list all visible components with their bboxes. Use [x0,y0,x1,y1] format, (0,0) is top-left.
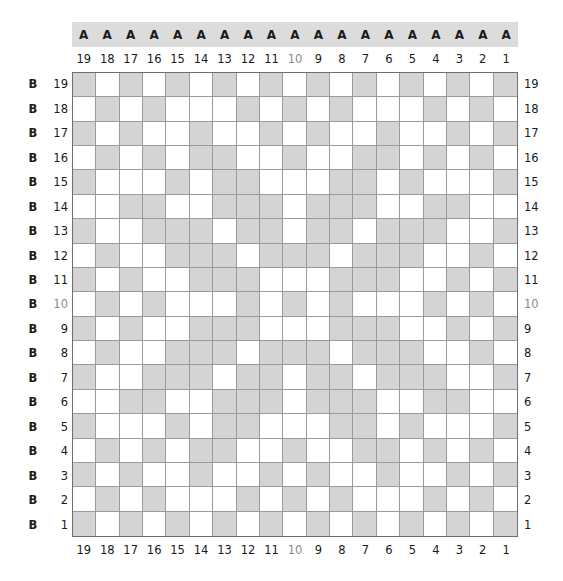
shaded-cell [307,463,330,487]
empty-cell [213,487,236,511]
empty-cell [330,463,353,487]
column-header-letter: A [307,28,330,42]
empty-cell [400,317,423,341]
empty-cell [447,146,470,170]
shaded-cell [283,341,306,365]
row-number: 2 [46,493,68,507]
shaded-cell [213,390,236,414]
empty-cell [307,268,330,292]
empty-cell [353,122,376,146]
shaded-cell [166,414,189,438]
empty-cell [330,341,353,365]
shaded-cell [400,219,423,243]
row-number: 15 [46,175,68,189]
empty-cell [260,146,283,170]
shaded-cell [377,122,400,146]
column-header-letter: A [424,28,447,42]
column-label: 8 [330,52,353,66]
empty-cell [190,390,213,414]
shaded-cell [237,317,260,341]
shaded-cell [377,146,400,170]
empty-cell [447,414,470,438]
row-number: 7 [46,371,68,385]
empty-cell [120,341,143,365]
empty-cell [307,170,330,194]
empty-cell [470,195,493,219]
shaded-cell [330,414,353,438]
column-header-letter: A [213,28,236,42]
empty-cell [400,146,423,170]
empty-cell [96,122,119,146]
shaded-cell [470,244,493,268]
empty-cell [260,97,283,121]
empty-cell [470,414,493,438]
row-label: B14 [20,194,70,218]
shaded-cell [190,365,213,389]
shaded-cell [260,244,283,268]
row-number-right: 5 [520,415,550,439]
empty-cell [447,219,470,243]
shaded-cell [424,219,447,243]
column-label: 17 [119,543,142,557]
shaded-cell [283,439,306,463]
empty-cell [424,122,447,146]
row-number: 18 [46,102,68,116]
empty-cell [494,341,517,365]
row-labels-right: 19181716151413121110987654321 [520,72,550,537]
empty-cell [447,341,470,365]
shaded-cell [73,122,96,146]
shaded-cell [213,146,236,170]
empty-cell [470,463,493,487]
shaded-cell [330,219,353,243]
empty-cell [166,463,189,487]
shaded-cell [237,487,260,511]
shaded-cell [213,170,236,194]
empty-cell [73,390,96,414]
column-header-letter: A [330,28,353,42]
shaded-cell [166,244,189,268]
row-number-right: 1 [520,513,550,537]
shaded-cell [494,268,517,292]
empty-cell [237,341,260,365]
empty-cell [307,414,330,438]
column-label: 4 [424,543,447,557]
column-label: 8 [330,543,353,557]
shaded-cell [470,292,493,316]
empty-cell [120,414,143,438]
shaded-cell [260,73,283,97]
empty-cell [143,317,166,341]
row-number-right: 12 [520,243,550,267]
empty-cell [283,512,306,536]
column-label: 14 [189,543,212,557]
row-number: 14 [46,200,68,214]
column-header-letter: A [95,28,118,42]
empty-cell [237,439,260,463]
row-number-right: 14 [520,194,550,218]
shaded-cell [447,390,470,414]
column-header-letter: A [354,28,377,42]
row-prefix: B [20,371,46,385]
row-number: 10 [46,297,68,311]
empty-cell [166,122,189,146]
column-label: 17 [119,52,142,66]
empty-cell [400,195,423,219]
shaded-cell [307,365,330,389]
row-label: B12 [20,243,70,267]
shaded-cell [400,512,423,536]
row-label: B17 [20,121,70,145]
shaded-cell [143,365,166,389]
column-label: 10 [283,52,306,66]
shaded-cell [260,390,283,414]
row-prefix: B [20,297,46,311]
shaded-cell [400,341,423,365]
empty-cell [400,268,423,292]
empty-cell [73,292,96,316]
empty-cell [120,439,143,463]
empty-cell [424,512,447,536]
row-prefix: B [20,395,46,409]
empty-cell [260,487,283,511]
shaded-cell [447,122,470,146]
row-number: 13 [46,224,68,238]
shaded-cell [260,365,283,389]
empty-cell [307,146,330,170]
